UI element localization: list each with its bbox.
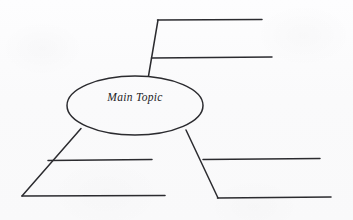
- central-topic-ellipse[interactable]: [67, 76, 203, 135]
- upper-right-line-1[interactable]: [158, 20, 263, 21]
- central-topic-label: Main Topic: [67, 91, 203, 103]
- upper-right-branch-connector: [149, 20, 159, 76]
- lower-right-branch-connector: [186, 130, 218, 198]
- upper-right-branch[interactable]: [149, 20, 273, 77]
- lower-left-line-1[interactable]: [22, 196, 165, 197]
- lower-left-line-2[interactable]: [48, 160, 152, 161]
- lower-right-line-1[interactable]: [218, 197, 332, 198]
- concept-map-diagram: [0, 0, 353, 220]
- worksheet-page: Main Topic: [0, 0, 353, 220]
- lower-right-branch[interactable]: [186, 130, 331, 198]
- lower-left-branch[interactable]: [22, 129, 165, 197]
- lower-left-branch-connector: [22, 129, 81, 197]
- upper-right-line-2[interactable]: [152, 57, 273, 58]
- lower-right-line-2[interactable]: [203, 159, 320, 160]
